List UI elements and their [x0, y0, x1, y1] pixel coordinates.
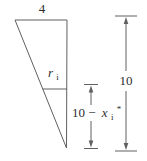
- triangle-outline: [15, 20, 67, 148]
- depth-label-subscript: i: [111, 112, 114, 122]
- depth-label-variable: x: [101, 105, 108, 120]
- depth-arrow-down-icon: [89, 141, 94, 148]
- labels: 4 r i 10 − x i * 10: [39, 1, 133, 123]
- height-arrow-down-icon: [124, 143, 129, 150]
- radius-label: r i: [48, 65, 59, 82]
- depth-arrow-up-icon: [89, 86, 94, 93]
- radius-label-subscript: i: [56, 72, 59, 82]
- height-arrow-up-icon: [124, 17, 129, 24]
- triangle-tank-figure: 4 r i 10 − x i * 10: [0, 0, 147, 161]
- total-height-label: 10: [120, 73, 133, 88]
- radius-label-base: r: [48, 65, 54, 80]
- depth-label: 10 − x i *: [72, 104, 122, 123]
- depth-label-prefix: 10 −: [72, 105, 96, 120]
- diagram-canvas: 4 r i 10 − x i * 10: [0, 0, 147, 161]
- depth-label-superscript: *: [117, 104, 122, 114]
- top-width-label: 4: [39, 1, 46, 16]
